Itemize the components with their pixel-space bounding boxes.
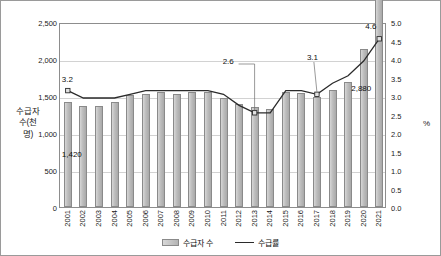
callout-leader	[239, 64, 255, 110]
callout-leader	[314, 62, 317, 92]
x-tick: 2006	[141, 210, 150, 227]
y-tick-left: 1,000	[21, 130, 57, 139]
label-line-2017: 3.1	[307, 53, 318, 62]
x-tick: 2003	[94, 210, 103, 227]
y-tick-right: 0.0	[391, 204, 421, 213]
label-line-2021: 4.6	[365, 22, 376, 31]
x-tick: 2011	[219, 210, 228, 226]
x-tick: 2010	[203, 210, 212, 227]
y-tick-left: 2,000	[21, 56, 57, 65]
y-tick-right: 3.5	[391, 74, 421, 83]
x-tick: 2014	[265, 210, 274, 227]
legend-label-bar: 수급자 수	[183, 237, 213, 248]
trend-line	[68, 39, 379, 113]
legend-item-line: 수급률	[235, 237, 279, 248]
x-tick: 2009	[187, 210, 196, 227]
plot-area: 3.22.63.14.61,4202,880	[59, 23, 386, 208]
line-marker	[252, 111, 256, 115]
label-bar-2021: 2,880	[351, 84, 371, 93]
y-tick-left: 2,500	[21, 19, 57, 28]
x-tick: 2015	[281, 210, 290, 227]
x-tick: 2002	[78, 210, 87, 227]
x-tick: 2004	[110, 210, 119, 227]
line-marker	[315, 92, 319, 96]
y-tick-right: 4.0	[391, 56, 421, 65]
label-line-2013: 2.6	[223, 57, 234, 66]
x-tick: 2020	[359, 210, 368, 227]
x-tick: 2018	[328, 210, 337, 227]
x-tick: 2013	[250, 210, 259, 227]
label-bar-2001: 1,420	[62, 150, 82, 159]
x-tick: 2016	[296, 210, 305, 227]
y-tick-right: 1.0	[391, 167, 421, 176]
y-tick-right: 5.0	[391, 19, 421, 28]
x-tick: 2021	[374, 210, 383, 227]
y-tick-right: 4.5	[391, 37, 421, 46]
y-tick-right: 2.5	[391, 111, 421, 120]
y-tick-left: 500	[21, 167, 57, 176]
y-tick-right: 0.5	[391, 185, 421, 194]
y-tick-left: 0	[21, 204, 57, 213]
bar-swatch-icon	[162, 239, 179, 246]
line-marker	[377, 37, 381, 41]
x-tick: 2005	[125, 210, 134, 227]
y-axis-left-ticks: 2,5002,0001,5001,0005000	[15, 23, 57, 208]
line-series	[60, 24, 387, 209]
x-tick: 2017	[312, 210, 321, 227]
label-line-2001: 3.2	[62, 75, 73, 84]
x-tick: 2012	[234, 210, 243, 227]
chart-legend: 수급자 수 수급률	[1, 237, 440, 248]
x-tick: 2019	[343, 210, 352, 227]
chart-figure: 수급자 수(천명) % 2,5002,0001,5001,0005000 5.0…	[0, 0, 441, 256]
y-axis-right-ticks: 5.04.54.03.53.02.52.01.51.00.50.0	[391, 23, 425, 208]
legend-label-line: 수급률	[258, 237, 279, 248]
legend-item-bar: 수급자 수	[162, 237, 213, 248]
y-tick-right: 2.0	[391, 130, 421, 139]
line-swatch-icon	[235, 242, 254, 243]
x-tick: 2001	[63, 210, 72, 227]
x-tick: 2007	[156, 210, 165, 227]
y-tick-left: 1,500	[21, 93, 57, 102]
y-tick-right: 3.0	[391, 93, 421, 102]
y-tick-right: 1.5	[391, 148, 421, 157]
line-marker	[66, 88, 70, 92]
x-tick: 2008	[172, 210, 181, 227]
